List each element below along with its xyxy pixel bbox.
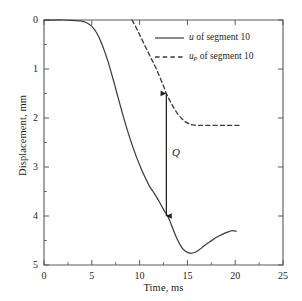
y-tick-label: 1 [22, 63, 38, 74]
y-axis-title: Displacement, mm [17, 66, 28, 206]
legend-swatches [155, 38, 184, 57]
annotation-label-q: Q [172, 146, 180, 158]
x-tick-label: 15 [177, 270, 197, 281]
legend-entry-up: up of segment 10 [189, 51, 253, 62]
x-axis-title: Time, ms [44, 282, 283, 293]
x-tick-label: 5 [82, 270, 102, 281]
y-tick-label: 5 [22, 259, 38, 270]
x-tick-label: 25 [273, 270, 293, 281]
legend-entry-u: u of segment 10 [189, 32, 250, 42]
legend-suffix-up: of segment 10 [197, 51, 253, 61]
legend-suffix-u: of segment 10 [194, 32, 250, 42]
y-tick-label: 2 [22, 112, 38, 123]
y-tick-label: 0 [22, 14, 38, 25]
y-tick-label: 4 [22, 210, 38, 221]
chart-figure: Displacement, mm Time, ms 05101520250123… [0, 0, 302, 301]
chart-plot-area [0, 0, 302, 301]
y-tick-label: 3 [22, 161, 38, 172]
x-tick-label: 0 [34, 270, 54, 281]
x-tick-label: 10 [130, 270, 150, 281]
x-tick-label: 20 [225, 270, 245, 281]
